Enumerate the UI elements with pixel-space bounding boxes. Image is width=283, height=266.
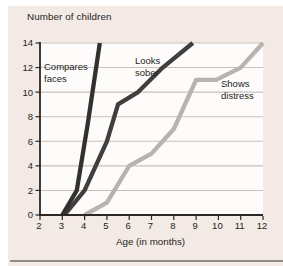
x-tick-label-12: 12 [257, 220, 268, 231]
x-tick-label-11: 11 [235, 220, 245, 231]
y-tick-label-6: 6 [28, 136, 33, 147]
y-tick-label-4: 4 [28, 160, 33, 171]
x-tick-label-9: 9 [192, 220, 197, 231]
y-tick-label-8: 8 [28, 111, 33, 122]
x-tick-label-7: 7 [148, 220, 153, 231]
y-tick-label-0: 0 [28, 209, 33, 220]
x-tick-label-8: 8 [170, 220, 175, 231]
x-tick-label-4: 4 [81, 220, 86, 231]
y-tick-label-12: 12 [22, 62, 33, 73]
x-axis-label: Age (in months) [116, 236, 185, 247]
bottom-rule [10, 260, 283, 262]
line-chart: 0246810121423456789101112Age (in months)… [0, 0, 283, 266]
x-tick-label-10: 10 [212, 220, 223, 231]
x-tick-label-5: 5 [103, 220, 108, 231]
series-label-looks-sober: Lookssober [135, 55, 161, 78]
y-tick-label-2: 2 [28, 185, 33, 196]
x-tick-label-3: 3 [59, 220, 64, 231]
x-tick-label-2: 2 [36, 220, 41, 231]
series-label-shows-distress: Showsdistress [221, 78, 254, 101]
x-tick-label-6: 6 [126, 220, 131, 231]
y-tick-label-14: 14 [22, 37, 33, 48]
y-tick-label-10: 10 [22, 87, 33, 98]
